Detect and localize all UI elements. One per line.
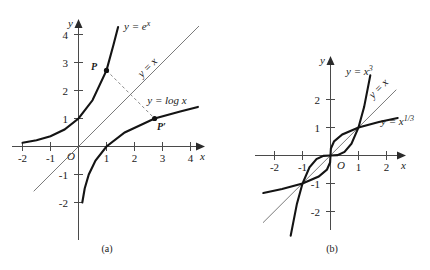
y-tick-label-4-a: 4 (63, 29, 69, 41)
exponential-curve-a (23, 27, 119, 143)
x-tick-label--1-b: -1 (298, 161, 307, 173)
point-p-marker-a (104, 68, 109, 73)
exp-curve-label-a: y = ex (123, 19, 151, 33)
y-axis-arrow-b (327, 56, 335, 65)
cube-curve-label-b: y = x3 (345, 64, 373, 78)
x-tick-label-4-a: 4 (188, 152, 194, 164)
panel-a-exponential-logarithm: -2 -1 1 2 3 4 4 3 2 1 -1 -2 O x y P P′ y… (0, 0, 215, 270)
y-tick-label-1-a: 1 (63, 113, 69, 125)
y-tick-label--1-a: -1 (59, 169, 68, 181)
point-p-prime-label-a: P′ (157, 121, 166, 132)
x-tick-label-1-a: 1 (104, 152, 110, 164)
y-tick-label--2-a: -2 (59, 197, 68, 209)
x-tick-label--2-a: -2 (18, 152, 27, 164)
y-tick-label-2-b: 2 (315, 94, 321, 106)
y-axis-label-b: y (319, 54, 325, 66)
x-tick-label-3-a: 3 (160, 152, 166, 164)
y-tick-label-1-b: 1 (315, 122, 321, 134)
x-tick-label-1-b: 1 (356, 161, 362, 173)
x-tick-label-2-a: 2 (132, 152, 138, 164)
y-tick-label--2-b: -2 (311, 206, 320, 218)
panel-b-cube-cuberoot: -2 -1 1 2 2 1 -1 -2 O x y y = x3 y = x1/… (215, 0, 430, 270)
identity-line-label-a: y = x (134, 55, 159, 80)
identity-line-a (34, 26, 199, 191)
panel-caption-b: (b) (326, 243, 338, 255)
y-axis-label-a: y (67, 17, 73, 29)
y-axis-arrow-a (75, 19, 83, 28)
figure-root: -2 -1 1 2 3 4 4 3 2 1 -1 -2 O x y P P′ y… (0, 0, 430, 270)
origin-label-b: O (337, 159, 345, 171)
y-tick-label-2-a: 2 (63, 85, 69, 97)
y-tick-label-3-a: 3 (63, 57, 69, 69)
x-tick-label--2-b: -2 (270, 161, 279, 173)
cube-root-curve-label-b: y = x1/3 (380, 114, 414, 128)
x-tick-label--1-a: -1 (46, 152, 55, 164)
point-p-label-a: P (91, 61, 98, 72)
panel-caption-a: (a) (101, 243, 112, 255)
x-tick-label-2-b: 2 (384, 161, 390, 173)
x-axis-label-b: x (400, 159, 406, 171)
logarithm-curve-a (82, 107, 198, 203)
x-axis-label-a: x (199, 150, 205, 162)
log-curve-label-a: y = log x (146, 94, 187, 106)
